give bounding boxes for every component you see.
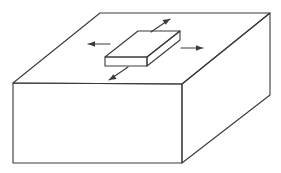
base-front-face	[13, 83, 182, 163]
figure-root: Thin slab resting on a rectangular block…	[0, 0, 281, 173]
slab-front-face	[105, 57, 147, 66]
block-diagram-svg: Thin slab resting on a rectangular block…	[0, 0, 281, 173]
